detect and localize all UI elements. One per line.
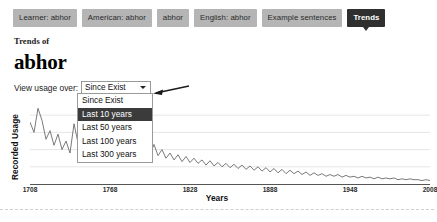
tab-label: Learner: abhor	[19, 13, 71, 22]
active-tab-pointer-icon	[363, 27, 369, 31]
chart-x-tick-label: 1888	[263, 186, 278, 193]
footer-divider	[0, 209, 434, 210]
page-kicker: Trends of	[14, 36, 49, 46]
usage-range-selected-value: Since Exist	[82, 83, 126, 92]
dropdown-option-label: Last 10 years	[82, 109, 132, 119]
tab-american-abhor[interactable]: American: abhor	[82, 9, 152, 27]
left-arrow-annotation-icon	[152, 83, 190, 95]
dropdown-option-label: Last 50 years	[82, 122, 132, 132]
tab-english-abhor[interactable]: English: abhor	[194, 9, 257, 27]
dropdown-option-last-300-years[interactable]: Last 300 years	[78, 148, 152, 162]
dropdown-option-last-10-years[interactable]: Last 10 years	[78, 108, 152, 122]
chart-x-tick-label: 1948	[343, 186, 358, 193]
chart-y-axis-label: Recorded Usage	[11, 112, 20, 182]
chart-x-tick-label: 1708	[23, 186, 38, 193]
tab-label: abhor	[163, 13, 183, 22]
chevron-down-icon	[140, 86, 146, 89]
dropdown-option-label: Last 100 years	[82, 136, 136, 146]
chart-x-tick-label: 1828	[183, 186, 198, 193]
tab-example-sentences[interactable]: Example sentences	[262, 9, 343, 27]
chart-x-axis-line	[30, 184, 430, 185]
tab-label: Example sentences	[268, 13, 337, 22]
dropdown-option-last-50-years[interactable]: Last 50 years	[78, 121, 152, 135]
dropdown-option-label: Last 300 years	[82, 149, 136, 159]
tab-abhor[interactable]: abhor	[157, 9, 189, 27]
chart-x-axis-label: Years	[0, 193, 434, 203]
usage-range-label: View usage over:	[14, 83, 78, 93]
tab-label: English: abhor	[200, 13, 251, 22]
tab-bar: Learner: abhor American: abhor abhor Eng…	[13, 9, 385, 27]
tab-trends[interactable]: Trends	[347, 9, 385, 27]
dropdown-option-last-100-years[interactable]: Last 100 years	[78, 135, 152, 149]
dropdown-option-label: Since Exist	[82, 95, 123, 105]
dropdown-option-since-exist[interactable]: Since Exist	[78, 94, 152, 108]
chart-x-tick-label: 1768	[103, 186, 118, 193]
page-title: abhor	[14, 50, 67, 75]
tab-label: American: abhor	[88, 13, 146, 22]
tab-learner-abhor[interactable]: Learner: abhor	[13, 9, 77, 27]
chart-x-tick-label: 2008	[423, 186, 437, 193]
usage-range-dropdown[interactable]: Since Exist Last 10 years Last 50 years …	[77, 93, 153, 163]
tab-label: Trends	[353, 13, 379, 22]
